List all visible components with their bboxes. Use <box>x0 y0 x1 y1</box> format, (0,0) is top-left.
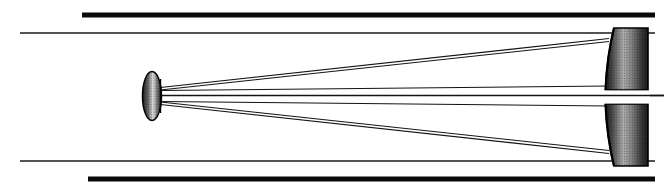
secondary-mirror <box>140 70 165 122</box>
primary-mirror-central-hole <box>604 91 650 104</box>
ray-lower-outer <box>161 105 610 154</box>
telescope-diagram-canvas <box>0 0 664 195</box>
ray-upper-inner <box>161 86 610 91</box>
primary-mirror-lower-segment <box>600 100 654 170</box>
primary-mirror <box>600 24 664 170</box>
primary-mirror-upper-segment <box>600 24 654 94</box>
telescope-diagram-figure <box>0 0 664 195</box>
ray-lower-reflected <box>161 102 610 151</box>
ray-upper-outer <box>161 39 610 88</box>
ray-upper-reflected <box>161 42 610 91</box>
ray-lower-inner <box>161 102 610 107</box>
telescope-tube <box>20 15 655 179</box>
